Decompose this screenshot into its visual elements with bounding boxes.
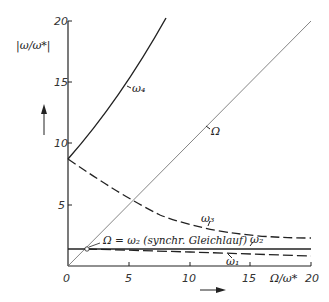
y-tick-10: 10 [54,137,68,150]
x-arrow-icon [200,287,226,293]
x-tick-5: 5 [125,272,132,285]
x-axis-label: Ω/ω* [269,272,298,285]
label-omega3: ω₃ [201,212,214,225]
label-omega2: ω₂ [250,233,263,246]
y-tick-20: 20 [54,15,68,28]
series-omega [68,21,311,266]
sync-point-marker [85,247,89,251]
label-omega1: ω₁ [226,255,239,268]
y-tick-15: 15 [54,76,68,89]
series-omega1 [87,249,311,256]
series-omega3 [68,159,311,238]
x-tick-10: 10 [182,272,196,285]
y-axis-label: |ω/ω*| [16,39,51,53]
x-tick-20: 20 [305,272,319,285]
sync-annotation: Ω = ω₂ (synchr. Gleichlauf) [102,234,247,246]
label-omega: Ω [210,125,220,138]
x-tick-0: 0 [63,272,70,285]
x-tick-15: 15 [242,272,256,285]
series-omega4 [68,18,166,159]
label-omega4: ω₄ [132,82,145,95]
y-arrow-icon [41,104,47,135]
chart: 20 15 10 5 0 5 10 15 20 |ω/ω*| Ω/ω* ω₄ Ω… [0,0,329,302]
y-tick-5: 5 [58,199,65,212]
